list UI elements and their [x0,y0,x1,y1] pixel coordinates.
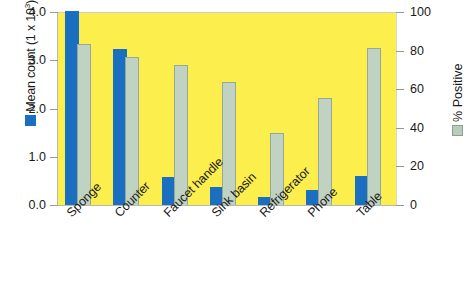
left-tick-label: 2.0 [6,103,46,115]
bar-group [65,13,113,206]
right-tick-label: 100 [410,6,450,18]
right-tick-mark [396,205,404,206]
right-tick-mark [396,12,404,13]
left-tick-mark [50,157,58,158]
right-tick-mark [396,89,404,90]
plot-area [58,12,396,206]
mean-count-legend-swatch-icon [25,115,36,126]
left-tick-mark [50,12,58,13]
right-tick-label: 80 [410,45,450,57]
left-tick-mark [50,60,58,61]
left-tick-label: 0.0 [6,199,46,211]
right-axis-title: % Positive [451,45,467,155]
right-tick-mark [396,51,404,52]
left-axis-title: Mean count (1 x 103) [23,0,41,143]
chart-container: Mean count (1 x 103) % Positive 4.03.02.… [0,0,470,294]
bar-group [113,13,161,206]
right-tick-mark [396,128,404,129]
right-tick-label: 40 [410,122,450,134]
left-tick-label: 1.0 [6,151,46,163]
percent-positive-legend-swatch-icon [452,125,463,136]
right-axis-title-label: % Positive [451,64,465,122]
bar-percent-positive [77,44,91,206]
left-tick-mark [50,109,58,110]
left-tick-label: 4.0 [6,6,46,18]
right-axis-line [396,12,397,206]
bar-group [306,13,354,206]
right-tick-label: 60 [410,83,450,95]
bar-percent-positive [367,48,381,206]
left-tick-mark [50,205,58,206]
left-tick-label: 3.0 [6,54,46,66]
right-tick-mark [396,166,404,167]
right-tick-label: 20 [410,160,450,172]
right-tick-label: 0 [410,199,450,211]
left-axis-title-suffix: ) [24,0,38,4]
